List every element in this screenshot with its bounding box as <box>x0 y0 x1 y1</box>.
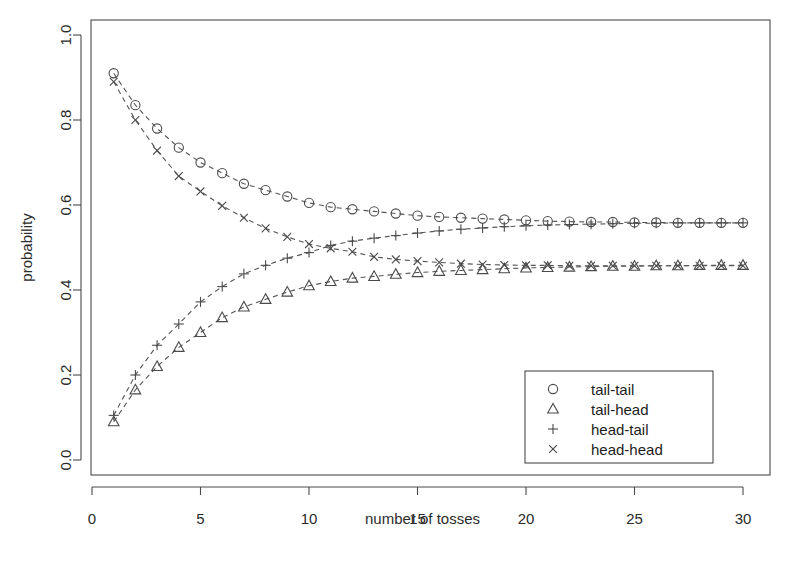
x-tick-label: 0 <box>88 510 96 527</box>
x-tick-label: 20 <box>518 510 535 527</box>
y-tick-label: 0.4 <box>57 280 74 301</box>
legend-item-label: head-tail <box>591 421 649 438</box>
y-tick-label: 0.8 <box>57 110 74 131</box>
y-tick-label: 1.0 <box>57 25 74 46</box>
x-axis-title: number of tosses <box>365 510 480 527</box>
y-axis-title: probability <box>18 213 35 282</box>
chart-page: 0.00.20.40.60.81.0 051015202530 number o… <box>0 0 794 568</box>
probability-convergence-chart: 0.00.20.40.60.81.0 051015202530 number o… <box>0 0 794 568</box>
y-tick-label: 0.2 <box>57 365 74 386</box>
legend-item-label: head-head <box>591 441 663 458</box>
chart-background <box>0 0 794 568</box>
y-tick-label: 0.0 <box>57 450 74 471</box>
legend-item-label: tail-tail <box>591 381 634 398</box>
legend[interactable]: tail-tailtail-headhead-tailhead-head <box>525 371 713 463</box>
legend-item-label: tail-head <box>591 401 649 418</box>
x-tick-label: 5 <box>196 510 204 527</box>
x-tick-label: 10 <box>301 510 318 527</box>
x-tick-label: 25 <box>626 510 643 527</box>
x-tick-label: 30 <box>735 510 752 527</box>
y-tick-label: 0.6 <box>57 195 74 216</box>
